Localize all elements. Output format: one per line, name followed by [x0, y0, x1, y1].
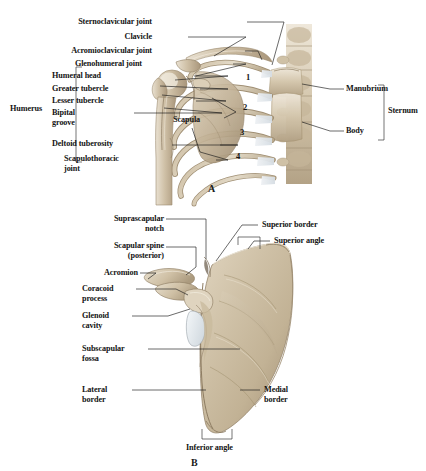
label-medial-border: Medial border: [264, 385, 288, 404]
sternal-body: [271, 93, 302, 142]
label-body: Body: [346, 126, 364, 136]
label-acromioclavicular-joint: Acromioclavicular joint: [20, 46, 152, 56]
label-glenoid-cavity: Glenoid cavity: [82, 311, 109, 330]
label-superior-border: Superior border: [262, 220, 317, 230]
rib-number-1: 1: [246, 73, 250, 83]
label-acromion: Acromion: [42, 268, 138, 278]
label-lateral-border: Lateral border: [82, 385, 107, 404]
acromion-process-a: [176, 60, 200, 72]
label-glenohumeral-joint: Glenohumeral joint: [22, 59, 142, 69]
scapula-blade: [200, 243, 293, 433]
label-humerus: Humerus: [10, 104, 42, 114]
rib-number-3: 3: [240, 128, 244, 138]
label-sternoclavicular-joint: Sternoclavicular joint: [30, 17, 152, 27]
figure-panel-a: Sternoclavicular joint Clavicle Acromioc…: [0, 0, 426, 205]
panel-a-letter: A: [208, 183, 215, 194]
label-suprascapular-notch: Suprascapular notch: [42, 214, 164, 233]
label-deltoid-tuberosity: Deltoid tuberosity: [52, 139, 113, 149]
label-scapulothoracic-joint: Scapulothoracic joint: [64, 154, 119, 173]
panel-b-letter: B: [191, 457, 198, 468]
label-superior-angle: Superior angle: [274, 236, 324, 246]
label-manubrium: Manubrium: [346, 84, 388, 94]
label-humeral-head: Humeral head: [52, 71, 101, 81]
label-inferior-angle: Inferior angle: [186, 443, 233, 453]
rib-number-2: 2: [243, 103, 247, 113]
label-bicipital-groove: Bipital groove: [52, 108, 75, 127]
scapular-body: [200, 243, 293, 433]
rib-number-4: 4: [236, 152, 240, 162]
sternum: [269, 68, 303, 142]
label-scapular-spine: Scapular spine (posterior): [42, 241, 164, 260]
label-subscapular-fossa: Subscapular fossa: [82, 344, 125, 363]
label-clavicle: Clavicle: [30, 32, 152, 42]
label-lesser-tubercle: Lesser tubercle: [52, 96, 104, 106]
label-sternum: Sternum: [388, 106, 418, 116]
label-coracoid-process: Coracoid process: [82, 284, 114, 303]
label-greater-tubercle: Greater tubercle: [52, 84, 108, 94]
figure-panel-b: Suprascapular notch Scapular spine (post…: [0, 205, 426, 471]
label-scapula: Scapula: [173, 115, 200, 125]
